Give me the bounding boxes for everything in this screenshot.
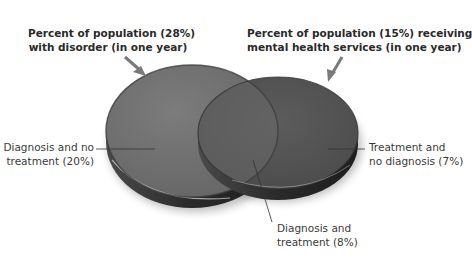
- label-dat-line2: treatment (8%): [277, 235, 377, 249]
- label-services-line1: Percent of population (15%) receiving: [247, 26, 455, 40]
- label-services: Percent of population (15%) receiving me…: [247, 26, 455, 54]
- label-disorder-line1: Percent of population (28%): [28, 26, 188, 40]
- label-disorder: Percent of population (28%) with disorde…: [28, 26, 188, 54]
- label-diagnosis-and-treatment: Diagnosis and treatment (8%): [277, 221, 377, 249]
- label-dnt-line1: Diagnosis and no: [0, 140, 94, 154]
- label-treatment-no-diagnosis: Treatment and no diagnosis (7%): [369, 140, 459, 168]
- label-diagnosis-no-treatment: Diagnosis and no treatment (20%): [0, 140, 94, 168]
- label-tnd-line1: Treatment and: [369, 140, 459, 154]
- arrow-left-icon: [125, 57, 146, 76]
- arrow-right-icon: [327, 57, 342, 82]
- label-dnt-line2: treatment (20%): [0, 154, 94, 168]
- label-tnd-line2: no diagnosis (7%): [369, 154, 459, 168]
- label-disorder-line2: with disorder (in one year): [28, 40, 188, 54]
- label-services-line2: mental health services (in one year): [247, 40, 455, 54]
- label-dat-line1: Diagnosis and: [277, 221, 377, 235]
